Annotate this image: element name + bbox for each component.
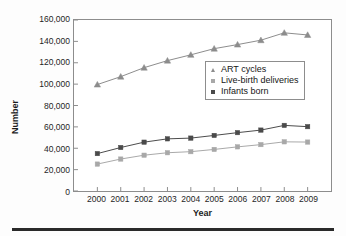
x-axis-tick-label: 2006 [228, 194, 247, 204]
data-point-marker [95, 162, 99, 166]
plot-svg [74, 20, 331, 191]
y-axis-tick-label: 20,000 [24, 165, 70, 175]
legend-item-label: Infants born [221, 86, 269, 97]
data-point-marker [259, 128, 263, 132]
y-axis-tick-label: 160,000 [24, 14, 70, 24]
y-axis-title-text: Number [10, 100, 20, 134]
data-point-marker [142, 140, 146, 144]
data-point-marker [95, 151, 99, 155]
data-point-marker [212, 147, 216, 151]
square-marker-icon [209, 76, 218, 85]
data-point-marker [282, 123, 286, 127]
data-point-marker [282, 140, 286, 144]
data-point-marker [212, 133, 216, 137]
x-axis-tick-label: 2004 [181, 194, 200, 204]
bottom-divider [12, 228, 334, 231]
y-axis-tick-label: 60,000 [24, 122, 70, 132]
legend-item: Infants born [209, 86, 299, 97]
x-axis-tick-labels: 2000200120022003200420052006200720082009 [73, 194, 332, 208]
series-line [97, 125, 307, 153]
y-axis-tick-label: 100,000 [24, 79, 70, 89]
square-marker-icon [209, 87, 218, 96]
plot-area [73, 19, 332, 192]
data-point-marker [119, 157, 123, 161]
data-point-marker [165, 137, 169, 141]
data-point-marker [118, 73, 124, 79]
x-axis-tick-label: 2000 [87, 194, 106, 204]
legend-marker-shape [211, 68, 215, 72]
y-axis-tick-labels: 020,00040,00060,00080,000100,000120,0001… [22, 0, 70, 236]
legend-marker-shape [211, 90, 215, 94]
data-point-marker [235, 145, 239, 149]
data-point-marker [235, 130, 239, 134]
legend-item: ART cycles [209, 64, 299, 75]
x-axis-tick-label: 2009 [299, 194, 318, 204]
data-point-marker [142, 153, 146, 157]
data-point-marker [305, 140, 309, 144]
triangle-marker-icon [209, 65, 218, 74]
x-axis-tick-label: 2007 [252, 194, 271, 204]
data-point-marker [165, 151, 169, 155]
x-axis-tick-label: 2001 [111, 194, 130, 204]
x-axis-tick-label: 2002 [134, 194, 153, 204]
y-axis-tick-label: 40,000 [24, 144, 70, 154]
x-axis-tick-label: 2003 [158, 194, 177, 204]
y-axis-tick-label: 80,000 [24, 101, 70, 111]
y-axis-tick-label: 140,000 [24, 36, 70, 46]
x-axis-tick-label: 2008 [275, 194, 294, 204]
legend-item: Live-birth deliveries [209, 75, 299, 86]
data-point-marker [259, 142, 263, 146]
legend-item-label: Live-birth deliveries [221, 75, 299, 86]
y-axis-tick-label: 0 [24, 187, 70, 197]
data-point-marker [281, 30, 287, 36]
x-axis-tick-label: 2005 [205, 194, 224, 204]
data-point-marker [305, 124, 309, 128]
figure-chart: Number 020,00040,00060,00080,000100,0001… [0, 0, 346, 236]
data-point-marker [189, 149, 193, 153]
chart-legend: ART cyclesLive-birth deliveriesInfants b… [205, 61, 305, 100]
data-point-marker [119, 145, 123, 149]
legend-marker-shape [211, 79, 215, 83]
legend-item-label: ART cycles [221, 64, 266, 75]
data-point-marker [189, 136, 193, 140]
y-axis-tick-label: 120,000 [24, 57, 70, 67]
x-axis-title: Year [73, 208, 332, 218]
